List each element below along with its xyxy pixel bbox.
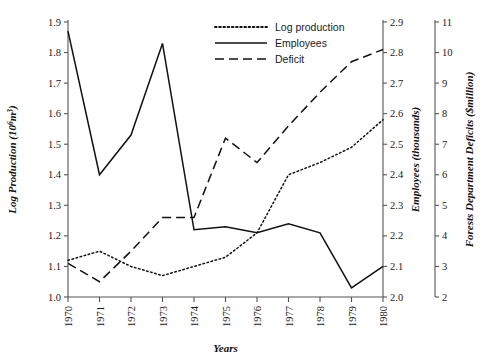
x-axis-title: Years bbox=[213, 342, 237, 354]
right-axis-2-tick-label: 4 bbox=[442, 230, 448, 241]
left-axis-title: Log Production (106m3) bbox=[6, 105, 20, 214]
left-axis-tick-label: 1.5 bbox=[48, 139, 61, 150]
right-axis-1-tick-label: 2.4 bbox=[390, 169, 404, 180]
x-axis-tick-label: 1975 bbox=[221, 306, 232, 327]
x-axis-tick-label: 1980 bbox=[378, 306, 389, 327]
left-axis-tick-label: 1.2 bbox=[48, 230, 61, 241]
left-axis-tick-label: 1.8 bbox=[48, 47, 61, 58]
left-axis-tick-label: 1.1 bbox=[48, 261, 61, 272]
right-axis-2-title: Forests Department Deficits ($million) bbox=[463, 72, 476, 249]
right-axis-1-tick-label: 2.1 bbox=[390, 261, 403, 272]
x-axis-tick-label: 1978 bbox=[315, 306, 326, 327]
right-axis-1-tick-label: 2.2 bbox=[390, 230, 403, 241]
right-axis-1-tick-label: 2.5 bbox=[390, 139, 403, 150]
legend-label-log-production: Log production bbox=[275, 21, 345, 33]
left-axis-tick-label: 1.4 bbox=[48, 169, 62, 180]
right-axis-1-title: Employees (thousands) bbox=[409, 107, 422, 213]
left-axis-tick-label: 1.7 bbox=[48, 78, 61, 89]
x-axis-tick-label: 1976 bbox=[252, 306, 263, 327]
x-axis-tick-label: 1977 bbox=[284, 306, 295, 327]
left-axis-tick-label: 1.3 bbox=[48, 200, 61, 211]
right-axis-2-tick-label: 6 bbox=[442, 169, 447, 180]
legend-label-deficit: Deficit bbox=[275, 53, 304, 65]
x-axis-tick-label: 1972 bbox=[126, 306, 137, 327]
right-axis-2-tick-label: 2 bbox=[442, 292, 447, 303]
series-line-log-production bbox=[68, 120, 383, 276]
right-axis-1-tick-label: 2.8 bbox=[390, 47, 403, 58]
right-axis-1-tick-label: 2.3 bbox=[390, 200, 403, 211]
left-axis-tick-label: 1.6 bbox=[48, 108, 61, 119]
series-line-deficit bbox=[68, 50, 383, 282]
right-axis-2-tick-label: 3 bbox=[442, 261, 447, 272]
x-axis-tick-label: 1970 bbox=[63, 306, 74, 327]
right-axis-2-tick-label: 11 bbox=[442, 17, 452, 28]
right-axis-2-tick-label: 9 bbox=[442, 78, 447, 89]
x-axis-tick-label: 1979 bbox=[347, 306, 358, 327]
legend-label-employees: Employees bbox=[275, 37, 327, 49]
series-line-employees bbox=[68, 31, 383, 288]
svg-text:Log Production (106m3): Log Production (106m3) bbox=[6, 105, 20, 214]
right-axis-2-tick-label: 7 bbox=[442, 139, 447, 150]
right-axis-2-tick-label: 5 bbox=[442, 200, 447, 211]
right-axis-2-tick-label: 10 bbox=[442, 47, 453, 58]
left-axis-tick-label: 1.9 bbox=[48, 17, 61, 28]
left-axis-tick-label: 1.0 bbox=[48, 292, 61, 303]
right-axis-1-tick-label: 2.9 bbox=[390, 17, 403, 28]
x-axis-tick-label: 1973 bbox=[158, 306, 169, 327]
right-axis-1-tick-label: 2.7 bbox=[390, 78, 403, 89]
multi-axis-line-chart: 1.01.11.21.31.41.51.61.71.81.91970197119… bbox=[0, 0, 491, 358]
right-axis-1-tick-label: 2.0 bbox=[390, 292, 403, 303]
x-axis-tick-label: 1974 bbox=[189, 305, 200, 327]
right-axis-1-tick-label: 2.6 bbox=[390, 108, 403, 119]
chart-container: 1.01.11.21.31.41.51.61.71.81.91970197119… bbox=[0, 0, 491, 358]
right-axis-2-tick-label: 8 bbox=[442, 108, 447, 119]
x-axis-tick-label: 1971 bbox=[95, 306, 106, 327]
